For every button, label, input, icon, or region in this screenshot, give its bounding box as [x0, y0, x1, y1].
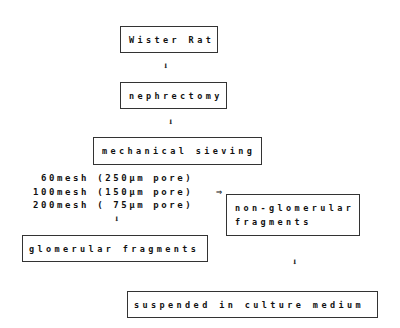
non-glomerular-fragments-box: non-glomerular fragments: [226, 194, 360, 236]
mesh-line-60: 60mesh (250µm pore): [33, 172, 193, 184]
mesh-line-200: 200mesh ( 75µm pore): [33, 199, 193, 211]
glomerular-fragments-label: glomerular fragments: [29, 244, 199, 254]
mechanical-sieving-label: mechanical sieving: [102, 146, 255, 156]
down-arrow-icon: ⬇: [163, 62, 168, 71]
mechanical-sieving-box: mechanical sieving: [93, 137, 262, 165]
nephrectomy-box: nephrectomy: [120, 82, 227, 109]
wister-rat-label: Wister Rat: [129, 35, 214, 45]
down-arrow-icon: ⬇: [114, 215, 119, 224]
mesh-line-100: 100mesh (150µm pore): [33, 186, 193, 198]
non-glomerular-label-line1: non-glomerular: [235, 201, 354, 215]
non-glomerular-label-line2: fragments: [235, 215, 312, 229]
glomerular-fragments-box: glomerular fragments: [22, 235, 208, 262]
down-arrow-icon: ⬇: [168, 118, 173, 127]
culture-medium-label: suspended in culture medium: [134, 300, 364, 310]
right-arrow-icon: ⇒: [216, 187, 222, 196]
nephrectomy-label: nephrectomy: [129, 91, 223, 101]
culture-medium-box: suspended in culture medium: [127, 291, 378, 318]
down-arrow-icon: ⬇: [292, 258, 297, 267]
wister-rat-box: Wister Rat: [120, 26, 218, 53]
